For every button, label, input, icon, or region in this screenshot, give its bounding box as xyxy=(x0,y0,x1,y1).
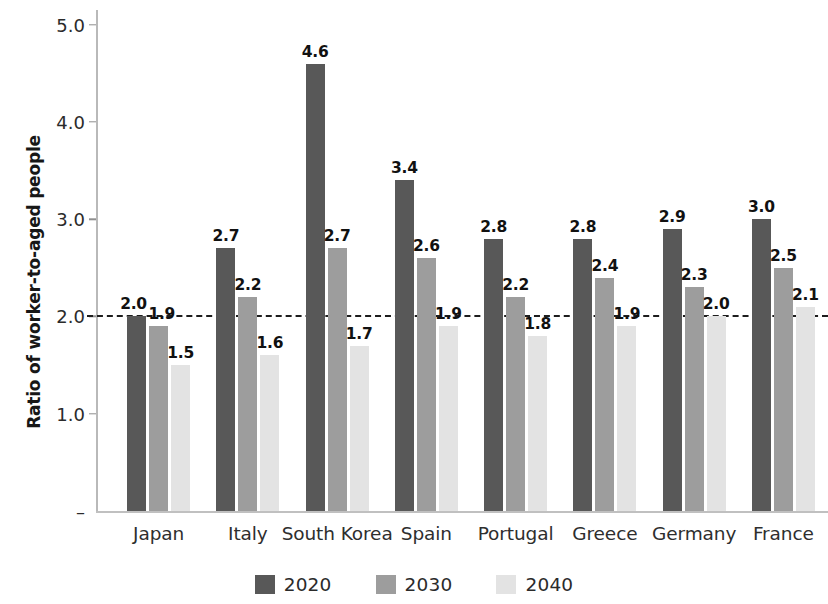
bar-value-label-portugal-2040: 1.8 xyxy=(524,315,551,333)
category-label-italy: Italy xyxy=(228,523,268,544)
series-2040-swatch xyxy=(496,575,516,594)
y-tick-label-4: 4.0 xyxy=(56,111,85,132)
bar-group-greece: 2.82.41.9 xyxy=(573,10,636,511)
bar-value-label-france-2020: 3.0 xyxy=(748,198,775,216)
bar-group-south-korea: 4.62.71.7 xyxy=(306,10,369,511)
bar-value-label-greece-2030: 2.4 xyxy=(592,257,619,275)
bar-value-label-italy-2040: 1.6 xyxy=(257,334,284,352)
bar-value-label-spain-2030: 2.6 xyxy=(413,237,440,255)
bar-value-label-spain-2020: 3.4 xyxy=(391,159,418,177)
category-label-portugal: Portugal xyxy=(478,523,554,544)
bar-value-label-spain-2040: 1.9 xyxy=(435,305,462,323)
bar-greece-2030[interactable]: 2.4 xyxy=(595,278,614,511)
bar-japan-2040[interactable]: 1.5 xyxy=(171,365,190,511)
y-tick-label-3: 3.0 xyxy=(56,209,85,230)
legend-item-2030[interactable]: 2030 xyxy=(376,574,453,595)
legend-item-2020[interactable]: 2020 xyxy=(255,574,332,595)
bar-germany-2030[interactable]: 2.3 xyxy=(685,287,704,511)
bar-italy-2040[interactable]: 1.6 xyxy=(260,355,279,511)
y-tick-mark-1 xyxy=(89,413,96,414)
plot-area: –1.02.03.04.05.0 2.01.91.52.72.21.64.62.… xyxy=(96,10,828,513)
y-tick-mark-4 xyxy=(89,121,96,122)
category-label-greece: Greece xyxy=(572,523,637,544)
bar-germany-2040[interactable]: 2.0 xyxy=(707,316,726,511)
bar-value-label-greece-2020: 2.8 xyxy=(570,218,597,236)
bar-group-france: 3.02.52.1 xyxy=(752,10,815,511)
bar-value-label-south-korea-2030: 2.7 xyxy=(324,227,351,245)
y-tick-mark-5 xyxy=(89,24,96,25)
y-tick-mark-3 xyxy=(89,218,96,219)
bar-group-japan: 2.01.91.5 xyxy=(127,10,190,511)
bar-portugal-2020[interactable]: 2.8 xyxy=(484,239,503,511)
category-label-france: France xyxy=(753,523,814,544)
bar-south-korea-2030[interactable]: 2.7 xyxy=(328,248,347,511)
bar-value-label-france-2030: 2.5 xyxy=(770,247,797,265)
bar-germany-2020[interactable]: 2.9 xyxy=(663,229,682,511)
bar-value-label-germany-2040: 2.0 xyxy=(703,295,730,313)
legend-label-2040: 2040 xyxy=(525,574,573,595)
bar-value-label-germany-2020: 2.9 xyxy=(659,208,686,226)
bar-value-label-germany-2030: 2.3 xyxy=(681,266,708,284)
bar-portugal-2030[interactable]: 2.2 xyxy=(506,297,525,511)
bar-france-2040[interactable]: 2.1 xyxy=(796,307,815,511)
series-2020-swatch xyxy=(255,575,275,594)
bar-japan-2020[interactable]: 2.0 xyxy=(127,316,146,511)
bar-value-label-portugal-2030: 2.2 xyxy=(502,276,529,294)
category-label-japan: Japan xyxy=(133,523,184,544)
legend-label-2030: 2030 xyxy=(405,574,453,595)
legend-item-2040[interactable]: 2040 xyxy=(496,574,573,595)
bar-value-label-italy-2030: 2.2 xyxy=(235,276,262,294)
category-label-spain: Spain xyxy=(401,523,452,544)
y-axis-title: Ratio of worker-to-aged people xyxy=(24,112,44,452)
y-axis-line xyxy=(96,10,98,513)
chart-legend: 202020302040 xyxy=(0,574,828,595)
bar-south-korea-2020[interactable]: 4.6 xyxy=(306,64,325,511)
category-label-germany: Germany xyxy=(652,523,736,544)
bar-value-label-japan-2030: 1.9 xyxy=(149,305,176,323)
bar-south-korea-2040[interactable]: 1.7 xyxy=(350,346,369,511)
bar-france-2030[interactable]: 2.5 xyxy=(774,268,793,511)
bar-group-italy: 2.72.21.6 xyxy=(216,10,279,511)
y-tick-label-1: 1.0 xyxy=(56,403,85,424)
bar-group-portugal: 2.82.21.8 xyxy=(484,10,547,511)
bar-greece-2040[interactable]: 1.9 xyxy=(617,326,636,511)
bar-value-label-japan-2020: 2.0 xyxy=(120,295,147,313)
bar-chart-figure: Ratio of worker-to-aged people –1.02.03.… xyxy=(0,0,828,604)
bar-spain-2040[interactable]: 1.9 xyxy=(439,326,458,511)
y-tick-label-5: 5.0 xyxy=(56,14,85,35)
bar-value-label-france-2040: 2.1 xyxy=(792,286,819,304)
bar-value-label-italy-2020: 2.7 xyxy=(213,227,240,245)
category-label-south-korea: South Korea xyxy=(282,523,393,544)
bar-value-label-portugal-2020: 2.8 xyxy=(480,218,507,236)
bar-value-label-south-korea-2020: 4.6 xyxy=(302,43,329,61)
bar-france-2020[interactable]: 3.0 xyxy=(752,219,771,511)
bar-greece-2020[interactable]: 2.8 xyxy=(573,239,592,511)
bar-group-germany: 2.92.32.0 xyxy=(663,10,726,511)
series-2030-swatch xyxy=(376,575,396,594)
y-tick-label-0: – xyxy=(76,501,85,522)
bar-spain-2030[interactable]: 2.6 xyxy=(417,258,436,511)
bar-japan-2030[interactable]: 1.9 xyxy=(149,326,168,511)
y-tick-label-2: 2.0 xyxy=(56,306,85,327)
legend-label-2020: 2020 xyxy=(284,574,332,595)
bar-spain-2020[interactable]: 3.4 xyxy=(395,180,414,511)
x-axis-line xyxy=(96,511,828,513)
bar-italy-2030[interactable]: 2.2 xyxy=(238,297,257,511)
bar-italy-2020[interactable]: 2.7 xyxy=(216,248,235,511)
bar-value-label-south-korea-2040: 1.7 xyxy=(346,325,373,343)
bar-value-label-japan-2040: 1.5 xyxy=(167,344,194,362)
bar-group-spain: 3.42.61.9 xyxy=(395,10,458,511)
bar-value-label-greece-2040: 1.9 xyxy=(614,305,641,323)
bar-portugal-2040[interactable]: 1.8 xyxy=(528,336,547,511)
